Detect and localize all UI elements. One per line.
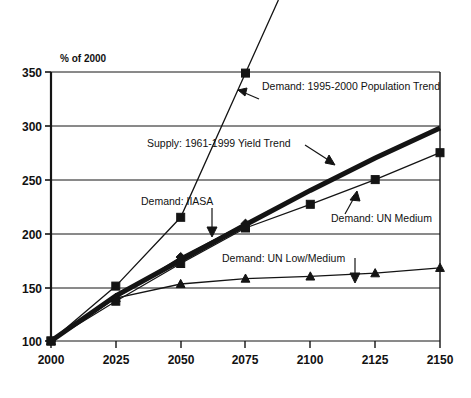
y-tick-label-350: 350 [22, 66, 42, 80]
series-1 [47, 0, 278, 345]
y-tick-label-300: 300 [22, 120, 42, 134]
x-tick-label-2125: 2125 [362, 353, 389, 367]
annotation-iiasa: Demand: IIASA [141, 195, 213, 207]
y-tick-label-150: 150 [22, 282, 42, 296]
chart-container: % of 2000 350 300 250 200 150 100 2000 2… [0, 0, 471, 398]
series-4 [47, 263, 445, 344]
x-tick-label-2025: 2025 [103, 353, 130, 367]
marker-square [436, 149, 444, 157]
marker-triangle [436, 263, 445, 271]
marker-square [242, 224, 250, 232]
x-tick-label-2150: 2150 [427, 353, 454, 367]
marker-square [177, 260, 185, 268]
y-axis-title: % of 2000 [60, 53, 107, 64]
annotation-un-low-medium: Demand: UN Low/Medium [222, 252, 345, 264]
x-tick-label-2075: 2075 [232, 353, 259, 367]
x-tick-label-2100: 2100 [297, 353, 324, 367]
x-tick-label-2050: 2050 [168, 353, 195, 367]
population-supply-demand-chart: % of 2000 350 300 250 200 150 100 2000 2… [0, 0, 471, 398]
marker-square [242, 69, 250, 77]
arrowhead-supply [325, 155, 335, 165]
arrowhead-pop-trend [238, 88, 247, 96]
x-tick-labels: 2000 2025 2050 2075 2100 2125 2150 [38, 353, 454, 367]
series-line [51, 153, 440, 341]
arrowhead-un-low-medium [350, 273, 360, 283]
annotation-population-trend: Demand: 1995-2000 Population Trend [262, 80, 440, 92]
marker-square [112, 282, 120, 290]
y-tick-label-250: 250 [22, 174, 42, 188]
arrowhead-iiasa [207, 227, 217, 237]
x-tick-label-2000: 2000 [38, 353, 65, 367]
series-line [51, 0, 278, 341]
series-layer [46, 0, 444, 346]
y-tick-label-200: 200 [22, 228, 42, 242]
arrowhead-un-medium [350, 191, 360, 201]
series-3 [47, 149, 444, 345]
y-tick-labels: 350 300 250 200 150 100 [22, 66, 42, 349]
marker-square [371, 176, 379, 184]
marker-square [306, 200, 314, 208]
y-tick-label-100: 100 [22, 335, 42, 349]
annotation-un-medium: Demand: UN Medium [331, 212, 432, 224]
x-tick-marks [51, 341, 440, 348]
annotation-supply: Supply: 1961-1999 Yield Trend [147, 137, 291, 149]
marker-square [177, 213, 185, 221]
